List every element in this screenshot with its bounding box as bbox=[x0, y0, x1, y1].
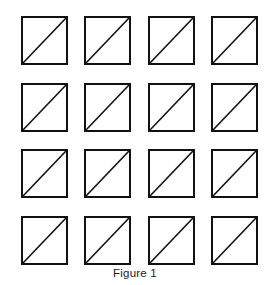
grid-cell-r4c3 bbox=[148, 216, 195, 265]
square-with-diagonal-icon bbox=[148, 83, 195, 132]
grid-cell-r1c4 bbox=[211, 16, 258, 65]
grid-cell-r2c4 bbox=[211, 83, 258, 132]
square-with-diagonal-icon bbox=[148, 149, 195, 198]
square-with-diagonal-icon bbox=[148, 216, 195, 265]
grid-cell-r3c2 bbox=[84, 149, 131, 198]
grid-cell-r4c4 bbox=[211, 216, 258, 265]
grid-cell-r1c3 bbox=[148, 16, 195, 65]
square-with-diagonal-icon bbox=[21, 216, 68, 265]
square-with-diagonal-icon bbox=[84, 216, 131, 265]
square-with-diagonal-icon bbox=[84, 83, 131, 132]
square-grid bbox=[21, 16, 259, 263]
grid-cell-r3c4 bbox=[211, 149, 258, 198]
figure-container: Figure 1 bbox=[0, 0, 270, 285]
square-with-diagonal-icon bbox=[211, 149, 258, 198]
square-with-diagonal-icon bbox=[211, 83, 258, 132]
grid-cell-r2c3 bbox=[148, 83, 195, 132]
grid-cell-r3c3 bbox=[148, 149, 195, 198]
grid-cell-r4c1 bbox=[21, 216, 68, 265]
square-with-diagonal-icon bbox=[211, 216, 258, 265]
square-with-diagonal-icon bbox=[84, 149, 131, 198]
grid-cell-r4c2 bbox=[84, 216, 131, 265]
square-with-diagonal-icon bbox=[21, 16, 68, 65]
square-with-diagonal-icon bbox=[84, 16, 131, 65]
figure-caption: Figure 1 bbox=[0, 266, 270, 280]
grid-cell-r2c1 bbox=[21, 83, 68, 132]
square-with-diagonal-icon bbox=[21, 149, 68, 198]
grid-cell-r3c1 bbox=[21, 149, 68, 198]
square-with-diagonal-icon bbox=[21, 83, 68, 132]
grid-cell-r1c2 bbox=[84, 16, 131, 65]
grid-cell-r1c1 bbox=[21, 16, 68, 65]
grid-cell-r2c2 bbox=[84, 83, 131, 132]
square-with-diagonal-icon bbox=[148, 16, 195, 65]
square-with-diagonal-icon bbox=[211, 16, 258, 65]
